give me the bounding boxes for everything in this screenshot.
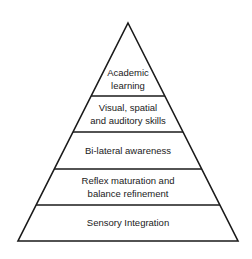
layer-bilateral-awareness: Bi-lateral awareness (85, 145, 171, 156)
layer-label-line: and auditory skills (90, 115, 166, 126)
layer-label-line: balance refinement (88, 188, 169, 199)
layer-label-line: Academic (107, 67, 149, 78)
pyramid-diagram: Academic learning Visual, spatial and au… (0, 0, 252, 259)
layer-label-line: Bi-lateral awareness (85, 145, 171, 156)
layer-label-line: Visual, spatial (99, 102, 157, 113)
layer-label-line: Reflex maturation and (82, 175, 175, 186)
layer-label-line: Sensory Integration (87, 217, 169, 228)
layer-sensory-integration: Sensory Integration (87, 217, 169, 228)
layer-label-line: learning (111, 80, 145, 91)
